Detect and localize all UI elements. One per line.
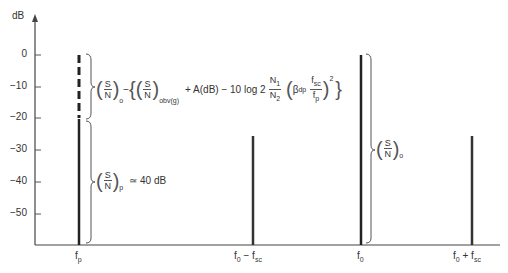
sn-fraction: SN: [384, 138, 392, 159]
frac-num: N1: [269, 75, 281, 90]
y-axis-unit: dB: [12, 10, 24, 21]
right-annotation: ( SN )o: [376, 138, 403, 159]
x-label-operator: −: [241, 250, 252, 261]
right-brace: [366, 54, 375, 243]
sn-fraction: SN: [104, 170, 112, 191]
close-paren: ): [323, 79, 330, 99]
x-label-operator: +: [460, 250, 471, 261]
frac-den: fp: [313, 90, 319, 104]
x-label-sub: sc: [255, 256, 262, 263]
y-tick-label: −10: [3, 80, 27, 91]
subscript: sc: [314, 80, 321, 87]
x-label-f0-minus-fsc: f0 − fsc: [234, 250, 262, 263]
close-brace: }: [335, 79, 342, 99]
open-paren: (: [376, 139, 383, 159]
frac-den: N: [144, 90, 151, 100]
frac-num: S: [143, 79, 151, 90]
y-tick-label: −40: [3, 175, 27, 186]
y-axis-arrow-icon: [32, 14, 38, 22]
x-label-sub: sc: [474, 256, 481, 263]
x-label-sub: p: [78, 256, 82, 263]
y-tick-label: −30: [3, 143, 27, 154]
frac-den: N2: [270, 90, 280, 104]
x-label-f0: f0: [357, 250, 364, 263]
sn-fraction: SN: [143, 79, 151, 100]
upper-annotation-formula: ( SN )o − { ( SN )obv(g) + A(dB) − 10 lo…: [96, 75, 342, 104]
subscript: o: [119, 97, 123, 104]
open-paren: (: [286, 79, 293, 99]
subscript: obv(g): [159, 97, 179, 104]
x-label-fp: fp: [75, 250, 82, 263]
y-tick-label: −20: [3, 111, 27, 122]
y-tick-label: 0: [3, 48, 27, 59]
subscript: 2: [276, 95, 280, 102]
upper-brace: [86, 54, 95, 119]
x-label-sub: 0: [360, 256, 364, 263]
y-ticks: [35, 55, 41, 214]
lower-annotation: ( SN )p ≃ 40 dB: [96, 170, 166, 191]
open-brace: {: [129, 79, 136, 99]
spectrum-plot: [0, 0, 508, 273]
close-paren: ): [113, 79, 120, 99]
subscript: p: [119, 184, 123, 191]
close-paren: ): [152, 79, 159, 99]
lower-brace: [86, 121, 95, 243]
n1-n2-fraction: N1N2: [269, 75, 281, 104]
open-paren: (: [136, 79, 143, 99]
frac-den: N: [384, 149, 391, 159]
fsc-fp-fraction: fscfp: [310, 75, 322, 104]
frac-num: S: [104, 79, 112, 90]
frac-den: N: [104, 90, 111, 100]
formula-text: + A(dB) − 10 log 2: [185, 84, 266, 95]
open-paren: (: [96, 171, 103, 191]
frac-den: N: [104, 181, 111, 191]
snr-value: ≃ 40 dB: [129, 175, 166, 186]
close-paren: ): [113, 171, 120, 191]
frac-num: fsc: [310, 75, 322, 90]
frac-num: S: [104, 170, 112, 181]
subscript: 1: [276, 80, 280, 87]
x-label-f0-plus-fsc: f0 + fsc: [453, 250, 481, 263]
close-paren: ): [393, 139, 400, 159]
sn-fraction: SN: [104, 79, 112, 100]
subscript: dp: [298, 86, 306, 93]
y-tick-label: −50: [3, 207, 27, 218]
frac-num: S: [384, 138, 392, 149]
subscript: p: [315, 95, 319, 102]
exponent: 2: [329, 75, 333, 82]
open-paren: (: [96, 79, 103, 99]
subscript: o: [399, 152, 403, 159]
